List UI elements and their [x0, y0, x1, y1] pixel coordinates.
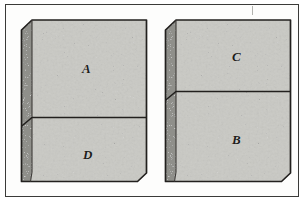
- label-b: B: [232, 132, 241, 148]
- right-block-side-face: [166, 20, 177, 182]
- label-d: D: [83, 147, 93, 163]
- right-block-front-face: [175, 20, 291, 182]
- left-block: A D: [20, 11, 152, 191]
- label-c: C: [232, 49, 241, 65]
- left-block-side-face: [22, 20, 33, 182]
- figure-root: A D C B: [0, 0, 307, 205]
- label-a: A: [82, 61, 91, 77]
- right-block: C B: [164, 11, 296, 191]
